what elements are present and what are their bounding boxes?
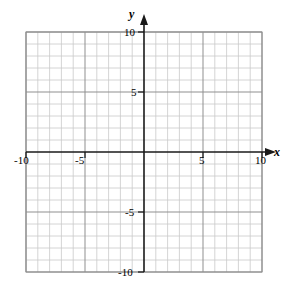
- y-tick-label-neg-5: -5: [125, 207, 134, 218]
- x-tick-label-pos-5: 5: [199, 155, 205, 166]
- y-tick-label-neg-10: -10: [118, 267, 133, 278]
- x-tick-label-neg-10: -10: [14, 155, 29, 166]
- y-tick-label-pos-5: 5: [131, 87, 137, 98]
- y-axis: [140, 14, 148, 272]
- y-axis-name-label: y: [129, 8, 134, 20]
- coordinate-grid-figure: x y -10 -5 5 10 10 5 -5 -10: [0, 0, 293, 288]
- x-tick-label-neg-5: -5: [75, 155, 84, 166]
- x-tick-label-pos-10: 10: [255, 155, 266, 166]
- coordinate-plane: [0, 0, 293, 288]
- x-axis-name-label: x: [274, 146, 280, 158]
- y-tick-label-pos-10: 10: [124, 27, 135, 38]
